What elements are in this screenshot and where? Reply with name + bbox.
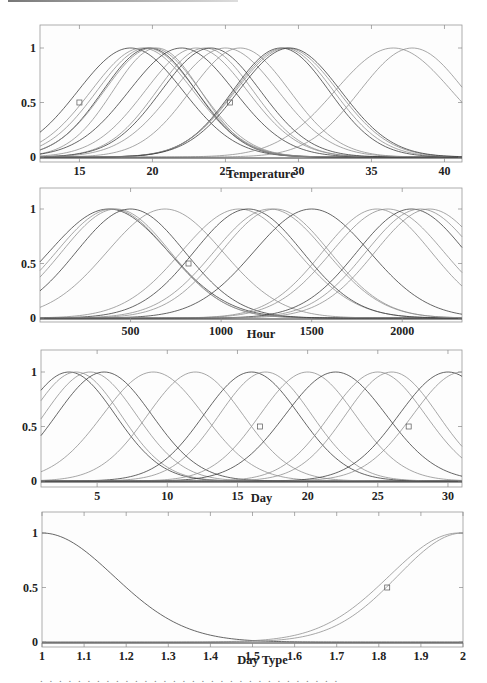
x-tick-label: 1 [39, 649, 45, 663]
y-tick-label: 0 [32, 635, 38, 649]
chart-panel-temperature: 00.51152025303540Temperature [21, 25, 462, 181]
y-tick-label: 0.5 [21, 96, 36, 110]
x-tick-label: 35 [365, 164, 377, 178]
x-tick-label: 2 [460, 649, 466, 663]
x-tick-label: 1.4 [203, 649, 218, 663]
plot-area [41, 350, 462, 487]
y-tick-label: 0.5 [22, 420, 37, 434]
x-axis-label: Day Type [237, 653, 288, 667]
x-tick-label: 15 [73, 164, 85, 178]
x-tick-label: 2000 [390, 324, 414, 338]
y-tick-label: 1 [30, 202, 36, 216]
x-tick-label: 20 [146, 164, 158, 178]
y-tick-label: 0.5 [21, 257, 36, 271]
x-axis-label: Day [251, 491, 273, 505]
y-tick-label: 1 [30, 41, 36, 55]
x-tick-label: 1.1 [77, 649, 92, 663]
chart-panel-hour: 00.51500100015002000Hour [21, 188, 462, 341]
y-tick-label: 1 [32, 526, 38, 540]
x-tick-label: 1.3 [161, 649, 176, 663]
plot-area [42, 512, 463, 647]
x-tick-label: 1.9 [413, 649, 428, 663]
x-tick-label: 30 [442, 489, 454, 503]
y-tick-label: 0 [30, 311, 36, 325]
x-tick-label: 1500 [300, 324, 324, 338]
chart-panel-day: 00.5151015202530Day [22, 350, 462, 505]
x-axis-label: Temperature [226, 167, 296, 181]
x-tick-label: 20 [302, 489, 314, 503]
x-tick-label: 500 [122, 324, 140, 338]
y-tick-label: 0.5 [23, 581, 38, 595]
x-axis-label: Hour [247, 327, 276, 341]
x-tick-label: 25 [372, 489, 384, 503]
plot-area [40, 25, 462, 162]
figure: 00.51152025303540Temperature00.515001000… [0, 0, 487, 683]
x-tick-label: 10 [161, 489, 173, 503]
figure-caption-fragment: . . . . . . . . . . . . . . . . . . . . … [40, 672, 460, 683]
y-tick-label: 0 [31, 474, 37, 488]
x-tick-label: 1.2 [119, 649, 134, 663]
y-tick-label: 0 [30, 150, 36, 164]
x-tick-label: 40 [438, 164, 450, 178]
x-tick-label: 1.6 [287, 649, 302, 663]
x-tick-label: 15 [231, 489, 243, 503]
chart-panel-day-type: 00.5111.11.21.31.41.51.61.71.81.92Day Ty… [23, 512, 466, 667]
x-tick-label: 1.8 [371, 649, 386, 663]
x-tick-label: 1.7 [329, 649, 344, 663]
x-tick-label: 1000 [209, 324, 233, 338]
y-tick-label: 1 [31, 365, 37, 379]
x-tick-label: 5 [94, 489, 100, 503]
